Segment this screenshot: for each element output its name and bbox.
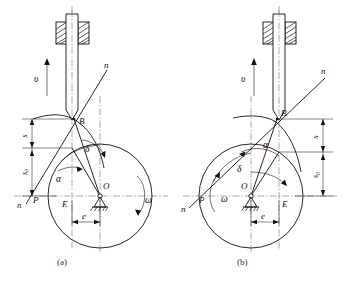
panel-a-drawing: υ n n B P E O bbox=[0, 0, 176, 284]
follower-rod bbox=[66, 10, 78, 120]
label-O-a: O bbox=[103, 181, 110, 191]
caption-a: (a) bbox=[57, 257, 67, 267]
fixed-pivot-support-b bbox=[242, 194, 260, 211]
cam-profile-curve-a bbox=[33, 115, 104, 168]
follower-rod-b bbox=[273, 10, 285, 120]
label-omega-a: ω bbox=[145, 195, 152, 205]
label-velocity-a: υ bbox=[34, 74, 39, 84]
dimension-s-b bbox=[277, 119, 333, 152]
radius-O-to-B-b bbox=[251, 119, 277, 196]
angle-alpha-a bbox=[58, 167, 83, 173]
guide-block-left bbox=[56, 22, 67, 44]
label-s0-a: s₀ bbox=[20, 169, 29, 175]
label-B-b: B bbox=[281, 108, 287, 118]
guide-block-right-b bbox=[285, 22, 296, 44]
label-delta-b: δ bbox=[237, 164, 242, 174]
figure-root: υ n n B P E O bbox=[0, 0, 351, 284]
angle-alpha-b bbox=[239, 149, 279, 157]
panel-b-drawing: υ n n B P E O bbox=[175, 0, 351, 284]
label-s0-b: s₀ bbox=[311, 172, 320, 178]
velocity-arrow-up bbox=[44, 58, 50, 96]
dimension-s-a bbox=[22, 119, 74, 148]
label-B-a: B bbox=[79, 116, 85, 126]
panel-a: υ n n B P E O bbox=[0, 0, 176, 284]
label-s-b: s bbox=[311, 135, 320, 138]
guide-block-left-b bbox=[263, 22, 274, 44]
label-delta-a: δ bbox=[85, 144, 90, 154]
omega-arrow-b bbox=[210, 172, 220, 212]
label-s-a: s bbox=[20, 134, 29, 137]
label-P-a: P bbox=[32, 195, 39, 205]
guide-block-right bbox=[78, 22, 89, 44]
fixed-pivot-support-a bbox=[91, 194, 109, 211]
label-O-b: O bbox=[241, 181, 248, 191]
label-velocity-b: υ bbox=[241, 74, 246, 84]
radius-O-to-pitchpoint-b bbox=[251, 152, 279, 196]
label-E-b: E bbox=[281, 199, 288, 209]
label-e-b: e bbox=[261, 211, 265, 221]
label-e-a: e bbox=[82, 211, 86, 221]
label-alpha-a: α bbox=[56, 174, 62, 184]
label-P-b: P bbox=[198, 195, 205, 205]
label-normal-upper-b: n bbox=[321, 66, 326, 76]
normal-line-b bbox=[189, 78, 325, 208]
label-E-a: E bbox=[61, 199, 68, 209]
label-normal-lower-a: n bbox=[17, 200, 22, 210]
label-omega-b: ω bbox=[221, 194, 228, 204]
caption-b: (b) bbox=[237, 257, 248, 267]
panel-b: υ n n B P E O bbox=[175, 0, 351, 284]
label-normal-lower-b: n bbox=[181, 204, 186, 214]
velocity-arrow-up-b bbox=[251, 58, 257, 96]
label-normal-upper-a: n bbox=[104, 60, 109, 70]
